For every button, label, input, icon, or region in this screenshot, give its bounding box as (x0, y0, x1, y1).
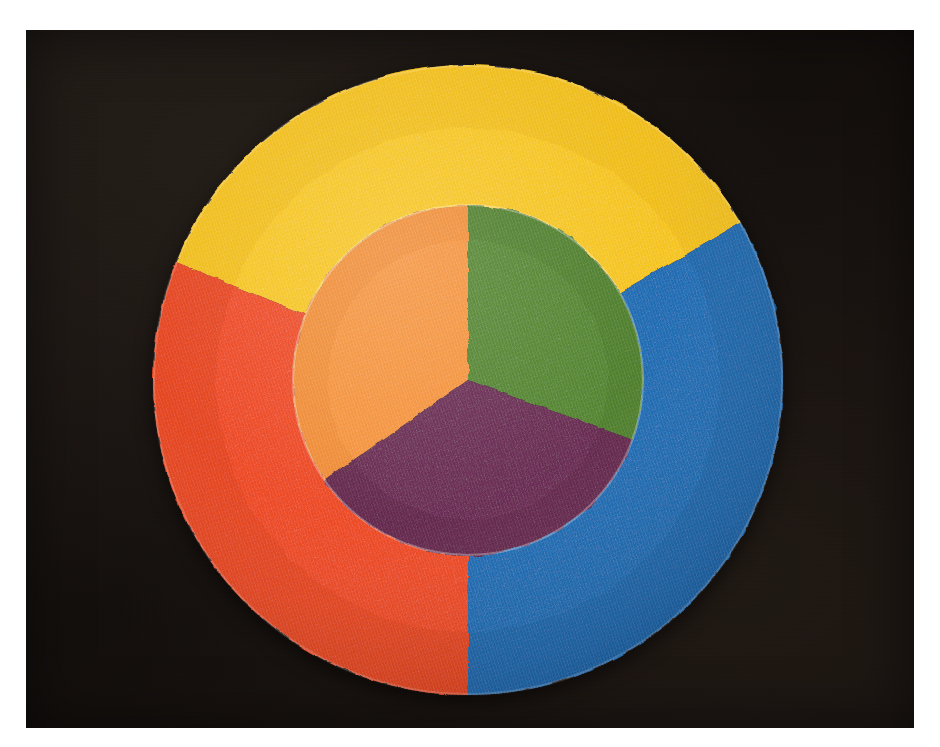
color-wheel-svg (152, 64, 784, 696)
color-wheel (152, 64, 784, 696)
color-wheel-stage (26, 30, 914, 728)
wheel-lighting-overlay (153, 65, 783, 695)
photo-frame (0, 0, 940, 747)
